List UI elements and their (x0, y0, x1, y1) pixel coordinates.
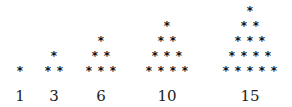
count-label: 15 (230, 87, 270, 105)
asterisk-icon: * (101, 50, 113, 62)
asterisk-icon: * (262, 50, 274, 62)
asterisk-icon: * (250, 50, 262, 62)
asterisk-icon: * (14, 65, 26, 77)
asterisk-icon: * (173, 50, 185, 62)
count-label: 6 (81, 87, 121, 105)
asterisk-icon: * (268, 65, 280, 77)
asterisk-icon: * (226, 50, 238, 62)
asterisk-icon: * (167, 35, 179, 47)
asterisk-icon: * (161, 20, 173, 32)
asterisk-icon: * (42, 65, 54, 77)
asterisk-icon: * (244, 5, 256, 17)
triangular-numbers-diagram: 1 * 3 *** 6 ****** 10 ********** 15 ****… (0, 0, 292, 107)
asterisk-icon: * (256, 65, 268, 77)
asterisk-icon: * (95, 35, 107, 47)
count-label: 3 (34, 87, 74, 105)
asterisk-icon: * (244, 65, 256, 77)
asterisk-icon: * (250, 20, 262, 32)
asterisk-icon: * (220, 65, 232, 77)
asterisk-icon: * (89, 50, 101, 62)
asterisk-icon: * (54, 65, 66, 77)
asterisk-icon: * (232, 35, 244, 47)
asterisk-icon: * (155, 65, 167, 77)
asterisk-icon: * (256, 35, 268, 47)
asterisk-icon: * (107, 65, 119, 77)
asterisk-icon: * (167, 65, 179, 77)
asterisk-icon: * (149, 50, 161, 62)
asterisk-icon: * (155, 35, 167, 47)
asterisk-icon: * (244, 35, 256, 47)
asterisk-icon: * (161, 50, 173, 62)
asterisk-icon: * (238, 20, 250, 32)
asterisk-icon: * (232, 65, 244, 77)
count-label: 10 (147, 87, 187, 105)
asterisk-icon: * (48, 50, 60, 62)
asterisk-icon: * (238, 50, 250, 62)
asterisk-icon: * (83, 65, 95, 77)
asterisk-icon: * (95, 65, 107, 77)
asterisk-icon: * (143, 65, 155, 77)
asterisk-icon: * (179, 65, 191, 77)
